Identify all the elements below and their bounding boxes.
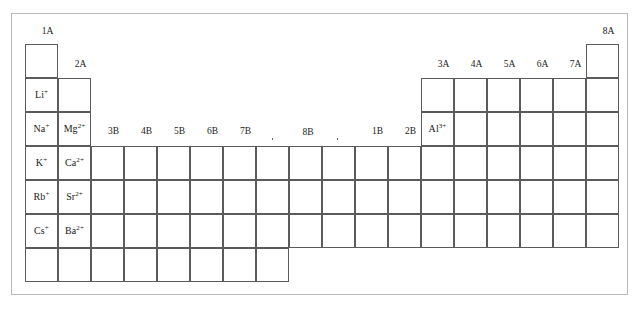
element-cell-empty[interactable] <box>520 112 553 146</box>
element-cell-empty[interactable] <box>190 214 223 248</box>
element-cell-empty[interactable] <box>190 180 223 214</box>
element-cell-empty[interactable] <box>553 180 586 214</box>
element-cell-empty[interactable] <box>157 214 190 248</box>
group-header-7b: 7B <box>229 127 262 137</box>
element-cell-empty[interactable] <box>487 146 520 180</box>
element-cell-empty[interactable] <box>520 180 553 214</box>
group-header-8b: 8B <box>272 128 344 138</box>
element-cell-na[interactable]: Na+ <box>25 112 58 146</box>
group-header-5b: 5B <box>163 127 196 137</box>
element-cell-empty[interactable] <box>91 214 124 248</box>
ion-label: Mg2+ <box>59 124 90 134</box>
element-cell-empty[interactable] <box>190 248 223 282</box>
element-cell-empty[interactable] <box>190 146 223 180</box>
element-cell-empty[interactable] <box>256 214 289 248</box>
element-cell-empty[interactable] <box>421 146 454 180</box>
element-cell-sr[interactable]: Sr2+ <box>58 180 91 214</box>
element-cell-empty[interactable] <box>553 214 586 248</box>
element-cell-empty[interactable] <box>223 180 256 214</box>
element-cell-empty[interactable] <box>223 214 256 248</box>
element-cell-empty[interactable] <box>322 180 355 214</box>
element-cell-empty[interactable] <box>487 78 520 112</box>
element-cell-empty[interactable] <box>586 180 619 214</box>
ion-charge: 2+ <box>76 224 84 232</box>
element-cell-cs[interactable]: Cs+ <box>25 214 58 248</box>
element-cell-empty[interactable] <box>586 112 619 146</box>
group-header-3b: 3B <box>97 127 130 137</box>
element-cell-empty[interactable] <box>124 180 157 214</box>
element-cell-empty[interactable] <box>124 214 157 248</box>
element-cell-k[interactable]: K+ <box>25 146 58 180</box>
element-cell-empty[interactable] <box>553 146 586 180</box>
element-cell-ba[interactable]: Ba2+ <box>58 214 91 248</box>
ion-charge: + <box>44 88 48 96</box>
ion-charge: + <box>45 224 49 232</box>
element-cell-empty[interactable] <box>289 180 322 214</box>
element-cell-empty[interactable] <box>25 248 58 282</box>
element-cell-empty[interactable] <box>58 248 91 282</box>
element-cell-empty[interactable] <box>454 146 487 180</box>
group-header-5a: 5A <box>493 60 526 70</box>
element-cell-empty[interactable] <box>322 146 355 180</box>
element-cell-empty[interactable] <box>553 78 586 112</box>
ion-label: Rb+ <box>26 192 57 202</box>
element-cell-empty[interactable] <box>355 214 388 248</box>
element-cell-empty[interactable] <box>520 146 553 180</box>
ion-charge: + <box>45 190 49 198</box>
element-cell-empty[interactable] <box>487 180 520 214</box>
group-header-1b: 1B <box>361 127 394 137</box>
element-cell-empty[interactable] <box>256 248 289 282</box>
element-cell-empty[interactable] <box>454 214 487 248</box>
element-cell-empty[interactable] <box>223 146 256 180</box>
element-cell-empty[interactable] <box>256 146 289 180</box>
ion-charge: 2+ <box>76 156 84 164</box>
element-cell-empty[interactable] <box>487 112 520 146</box>
element-cell-mg[interactable]: Mg2+ <box>58 112 91 146</box>
element-cell-empty[interactable] <box>520 78 553 112</box>
element-cell-empty[interactable] <box>520 214 553 248</box>
element-cell-empty[interactable] <box>256 180 289 214</box>
element-cell-empty[interactable] <box>487 214 520 248</box>
ion-label: Ba2+ <box>59 226 90 236</box>
element-cell-empty[interactable] <box>157 248 190 282</box>
element-cell-empty[interactable] <box>388 146 421 180</box>
periodic-table-figure: Li+Na+K+Rb+Cs+Mg2+Ca2+Sr2+Ba2+Al3+ 1A2A3… <box>0 0 642 310</box>
element-cell-empty[interactable] <box>454 78 487 112</box>
element-cell-ca[interactable]: Ca2+ <box>58 146 91 180</box>
element-cell-empty[interactable] <box>454 180 487 214</box>
element-cell-empty[interactable] <box>421 214 454 248</box>
element-cell-empty[interactable] <box>586 146 619 180</box>
element-cell-empty[interactable] <box>25 44 58 78</box>
element-cell-empty[interactable] <box>355 180 388 214</box>
ion-charge: 2+ <box>78 122 86 130</box>
element-cell-empty[interactable] <box>157 180 190 214</box>
element-cell-empty[interactable] <box>586 214 619 248</box>
element-cell-empty[interactable] <box>322 214 355 248</box>
element-cell-empty[interactable] <box>553 112 586 146</box>
element-cell-empty[interactable] <box>289 214 322 248</box>
element-cell-rb[interactable]: Rb+ <box>25 180 58 214</box>
element-cell-empty[interactable] <box>388 214 421 248</box>
element-cell-empty[interactable] <box>124 248 157 282</box>
group-header-7a: 7A <box>559 60 592 70</box>
group-header-3a: 3A <box>427 60 460 70</box>
element-cell-empty[interactable] <box>586 78 619 112</box>
ion-label: Ca2+ <box>59 158 90 168</box>
element-cell-empty[interactable] <box>421 78 454 112</box>
element-cell-empty[interactable] <box>289 146 322 180</box>
element-cell-empty[interactable] <box>454 112 487 146</box>
element-cell-empty[interactable] <box>91 180 124 214</box>
group-8b-bracket: 8B <box>272 134 338 144</box>
element-cell-empty[interactable] <box>91 146 124 180</box>
element-cell-empty[interactable] <box>388 180 421 214</box>
element-cell-empty[interactable] <box>124 146 157 180</box>
element-cell-empty[interactable] <box>91 248 124 282</box>
element-cell-empty[interactable] <box>157 146 190 180</box>
element-cell-empty[interactable] <box>223 248 256 282</box>
element-cell-li[interactable]: Li+ <box>25 78 58 112</box>
ion-label: K+ <box>26 158 57 168</box>
element-cell-empty[interactable] <box>58 78 91 112</box>
group-header-6a: 6A <box>526 60 559 70</box>
element-cell-empty[interactable] <box>421 180 454 214</box>
element-cell-empty[interactable] <box>355 146 388 180</box>
